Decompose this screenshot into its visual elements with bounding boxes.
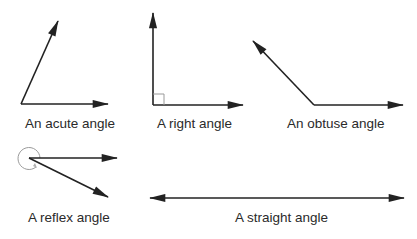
- right-angle: A right angle: [153, 13, 243, 131]
- straight-angle: A straight angle: [150, 198, 404, 225]
- acute-angle: An acute angle: [21, 21, 115, 131]
- obtuse-ray-diagonal: [253, 41, 314, 105]
- obtuse-angle-label: An obtuse angle: [287, 116, 385, 131]
- acute-ray-diagonal: [21, 21, 58, 104]
- reflex-angle: A reflex angle: [18, 148, 117, 225]
- right-angle-square-marker: [153, 94, 164, 105]
- reflex-angle-label: A reflex angle: [28, 210, 110, 225]
- right-angle-label: A right angle: [157, 116, 232, 131]
- straight-angle-label: A straight angle: [235, 210, 328, 225]
- acute-angle-label: An acute angle: [25, 116, 115, 131]
- angles-diagram: An acute angle A right angle An obtuse a…: [0, 0, 417, 239]
- obtuse-angle: An obtuse angle: [253, 41, 403, 131]
- reflex-ray-diagonal: [29, 158, 108, 197]
